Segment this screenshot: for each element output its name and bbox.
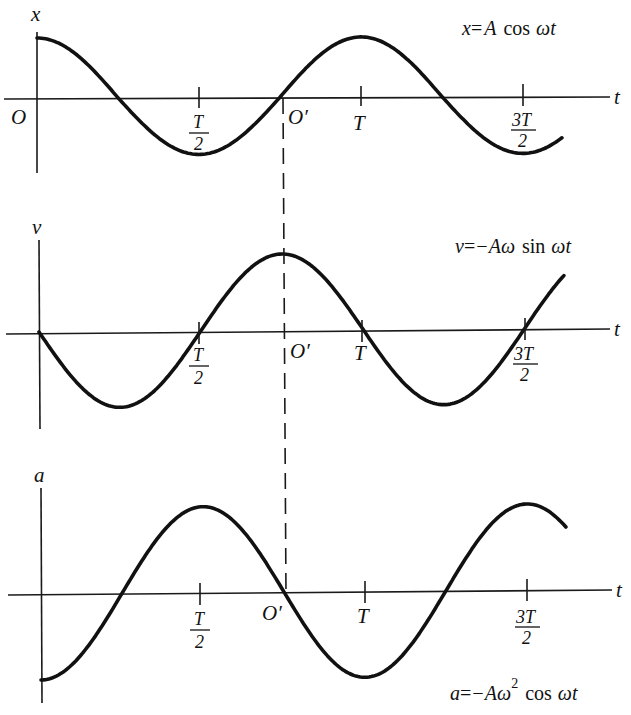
x-axis — [8, 590, 612, 595]
equation-acceleration: a=−Aω2cosωt — [450, 676, 578, 704]
shm-diagram: x t O T 2 O′ T 3T 2 x=Acosωt v t — [0, 0, 631, 715]
tick-label-half-period: T 2 — [189, 112, 209, 154]
svg-text:T: T — [193, 345, 205, 365]
tick-label-period: T — [353, 111, 366, 135]
svg-text:2: 2 — [522, 628, 531, 648]
tick-label-three-half-period: 3T 2 — [511, 110, 536, 151]
o-prime-dashed-line — [283, 98, 286, 596]
svg-text:3T: 3T — [511, 110, 533, 130]
svg-text:2: 2 — [520, 365, 529, 385]
x-axis-label: t — [614, 317, 621, 341]
x-axis — [4, 97, 610, 99]
tick-label-half-period: T 2 — [189, 345, 209, 388]
x-axis-label: t — [614, 85, 621, 109]
tick-label-period: T — [357, 604, 370, 628]
svg-text:3T: 3T — [515, 607, 537, 627]
equation-displacement: x=Acosωt — [461, 17, 556, 39]
tick-label-half-period: T 2 — [190, 609, 210, 652]
tick-label-three-half-period: 3T 2 — [515, 607, 540, 648]
svg-text:2: 2 — [195, 632, 204, 652]
equation-velocity: v=−Aωsinωt — [455, 235, 571, 257]
x-axis-label: t — [616, 578, 623, 602]
tick-label-o-prime: O′ — [262, 601, 282, 625]
y-axis-label: x — [30, 2, 41, 26]
y-axis-label: a — [34, 463, 45, 487]
origin-label: O — [11, 105, 26, 129]
svg-text:T: T — [193, 112, 205, 132]
tick-label-o-prime: O′ — [288, 105, 308, 129]
svg-text:T: T — [194, 609, 206, 629]
panel-acceleration: a t T 2 O′ T 3T 2 a=−Aω2cosωt — [8, 463, 623, 704]
tick-label-o-prime: O′ — [290, 339, 310, 363]
tick-label-period: T — [354, 341, 367, 365]
svg-text:2: 2 — [518, 131, 527, 151]
tick-label-three-half-period: 3T 2 — [513, 344, 538, 385]
y-axis-label: v — [32, 215, 42, 239]
svg-text:2: 2 — [194, 368, 203, 388]
panel-displacement: x t O T 2 O′ T 3T 2 x=Acosωt — [4, 2, 621, 173]
displacement-curve — [37, 37, 562, 155]
svg-text:3T: 3T — [513, 344, 535, 364]
svg-text:2: 2 — [194, 134, 203, 154]
panel-velocity: v t T 2 O′ T 3T 2 v=−Aωsinωt — [6, 215, 621, 429]
